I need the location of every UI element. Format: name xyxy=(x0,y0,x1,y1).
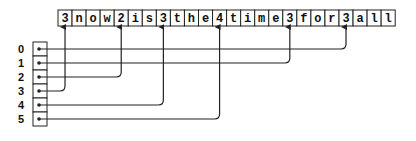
pointer-arrow xyxy=(39,27,121,77)
string-cell: e xyxy=(269,10,283,26)
cell-char: a xyxy=(356,12,363,26)
cell-char: o xyxy=(314,12,321,26)
cell-char: o xyxy=(90,12,97,26)
cell-char: 3 xyxy=(61,12,68,26)
cell-char: t xyxy=(174,12,181,26)
cell-char: t xyxy=(230,12,237,26)
string-cell: s xyxy=(142,10,156,26)
cell-char: m xyxy=(258,12,265,26)
pointer-index-label: 1 xyxy=(18,57,24,69)
string-cell: o xyxy=(86,10,100,26)
string-cell: 3 xyxy=(339,10,353,26)
length-prefixed-string-array: 3now2is3the4time3for3all xyxy=(58,10,395,26)
pointer-arrow xyxy=(39,27,290,63)
string-cell: i xyxy=(128,10,142,26)
string-cell: 2 xyxy=(114,10,128,26)
cell-char: 4 xyxy=(216,12,223,26)
string-cell: o xyxy=(311,10,325,26)
cell-char: 3 xyxy=(160,12,167,26)
string-cell: 4 xyxy=(213,10,227,26)
cell-char: i xyxy=(132,12,139,26)
string-cell: n xyxy=(72,10,86,26)
pointer-index-label: 3 xyxy=(18,85,24,97)
cell-char: f xyxy=(300,12,307,26)
cell-char: i xyxy=(244,12,251,26)
pointer-index-label: 5 xyxy=(18,113,24,125)
string-cell: i xyxy=(241,10,255,26)
string-cell: a xyxy=(353,10,367,26)
string-cell: r xyxy=(325,10,339,26)
cell-char: 3 xyxy=(286,12,293,26)
cell-char: s xyxy=(146,12,153,26)
pointer-array: 012345 xyxy=(18,42,47,126)
cell-char: 3 xyxy=(342,12,349,26)
pointer-index-label: 4 xyxy=(18,99,25,111)
string-cell: e xyxy=(199,10,213,26)
string-cell: t xyxy=(227,10,241,26)
string-cell: m xyxy=(255,10,269,26)
string-cell: t xyxy=(170,10,184,26)
pointer-arrow xyxy=(39,27,346,49)
string-cell: l xyxy=(381,10,395,26)
string-cell: f xyxy=(297,10,311,26)
string-cell: h xyxy=(184,10,198,26)
string-cell: 3 xyxy=(156,10,170,26)
cell-char: e xyxy=(272,12,279,26)
pointer-index-label: 2 xyxy=(18,71,24,83)
string-cell: w xyxy=(100,10,114,26)
cell-char: l xyxy=(385,12,392,26)
string-pointer-diagram: 3now2is3the4time3for3all 012345 xyxy=(0,0,416,141)
pointer-arrow xyxy=(39,27,163,105)
cell-char: n xyxy=(75,12,82,26)
cell-char: r xyxy=(328,12,335,26)
cell-char: w xyxy=(104,12,112,26)
string-cell: 3 xyxy=(283,10,297,26)
string-cell: 3 xyxy=(58,10,72,26)
pointer-links xyxy=(39,27,346,119)
cell-char: 2 xyxy=(118,12,125,26)
string-cell: l xyxy=(367,10,381,26)
pointer-index-label: 0 xyxy=(18,43,24,55)
cell-char: e xyxy=(202,12,209,26)
cell-char: h xyxy=(188,12,195,26)
cell-char: l xyxy=(371,12,378,26)
